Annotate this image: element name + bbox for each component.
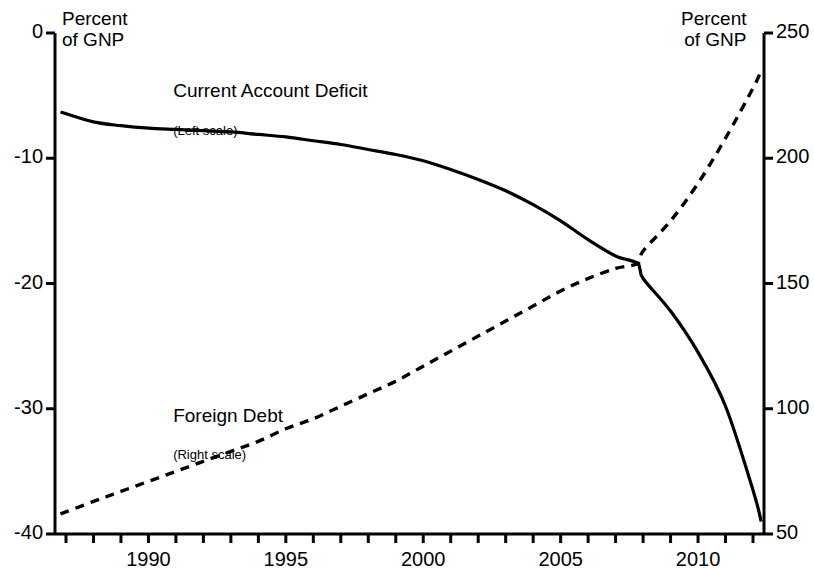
x-axis-tick-label: 2000: [363, 548, 483, 571]
left-axis-tick-label: -10: [14, 145, 43, 168]
series-line-1: [61, 112, 762, 522]
x-axis-tick-label: 1995: [226, 548, 346, 571]
chart-figure: Percent of GNP Percent of GNP 0-10-20-30…: [0, 0, 814, 577]
x-axis-tick-label: 2005: [501, 548, 621, 571]
right-axis-tick-label: 200: [776, 145, 809, 168]
left-axis-tick-label: -30: [14, 396, 43, 419]
series-annotation-scale: (Right scale): [173, 447, 246, 462]
plot-canvas: [0, 0, 814, 577]
left-axis-tick-label: 0: [32, 20, 43, 43]
series-annotation-scale: (Left scale): [173, 123, 237, 138]
left-axis-tick-label: -40: [14, 521, 43, 544]
x-axis-tick-label: 2010: [638, 548, 758, 571]
left-axis-tick-label: -20: [14, 271, 43, 294]
right-axis-tick-label: 150: [776, 271, 809, 294]
series-annotation-name: Foreign Debt: [173, 405, 283, 427]
x-axis-tick-label: 1990: [88, 548, 208, 571]
right-axis-tick-label: 100: [776, 396, 809, 419]
axes: [46, 33, 773, 543]
right-axis-tick-label: 250: [776, 20, 809, 43]
right-axis-tick-label: 50: [776, 521, 798, 544]
series-annotation-name: Current Account Deficit: [173, 80, 367, 102]
data-series: [61, 71, 762, 522]
